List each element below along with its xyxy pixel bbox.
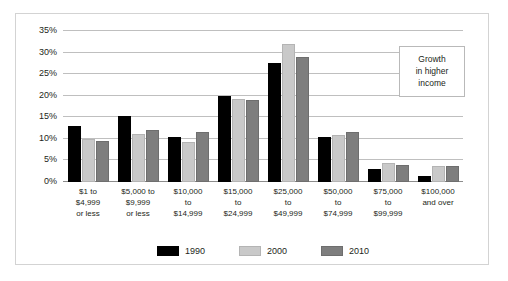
x-axis-tick-label: $15,000to$24,999	[213, 186, 263, 219]
bar-2010	[346, 132, 359, 182]
bar-2000	[182, 142, 195, 182]
legend-item-2010[interactable]: 2010	[321, 246, 369, 256]
legend-swatch-2000	[239, 246, 261, 256]
y-axis-tick-label: 10%	[39, 133, 57, 142]
x-axis-tick-label-line: to	[363, 197, 413, 208]
x-axis-tick-label-line: or less	[113, 208, 163, 219]
bar-chart-figure: 0%5%10%15%20%25%30%35% $1 to$4,999or les…	[0, 0, 508, 281]
x-axis-tick-label-line: $100,000	[413, 186, 463, 197]
x-axis-tick-label-line: $4,999	[63, 197, 113, 208]
legend-swatch-1990	[157, 246, 179, 256]
bar-1990	[268, 63, 281, 182]
x-axis-tick-label-line: $24,999	[213, 208, 263, 219]
x-axis-tick-label-line: to	[313, 197, 363, 208]
x-axis-tick-label: $1 to$4,999or less	[63, 186, 113, 219]
y-axis-tick-label: 20%	[39, 90, 57, 99]
bar-2000	[132, 134, 145, 182]
bar-group	[313, 31, 363, 182]
bar-2010	[96, 141, 109, 182]
x-axis-tick-label-line: $9,999	[113, 197, 163, 208]
x-axis-tick-label-line: to	[263, 197, 313, 208]
x-axis-tick-label-line: $75,000	[363, 186, 413, 197]
x-axis-tick-label-line: $50,000	[313, 186, 363, 197]
x-axis-tick-label: $25,000to$49,999	[263, 186, 313, 219]
bar-2010	[296, 57, 309, 182]
callout-line-3: income	[402, 77, 462, 89]
legend-item-1990[interactable]: 1990	[157, 246, 205, 256]
bar-1990	[68, 126, 81, 182]
bar-group	[63, 31, 113, 182]
x-axis-tick-label-line: $25,000	[263, 186, 313, 197]
bar-1990	[168, 137, 181, 182]
bar-2000	[82, 139, 95, 182]
bar-2000	[232, 99, 245, 182]
bar-2010	[396, 165, 409, 182]
bar-1990	[218, 96, 231, 182]
x-axis-tick-label-line: to	[213, 197, 263, 208]
chart-legend: 199020002010	[63, 246, 463, 256]
x-axis-tick-label-line: $1 to	[63, 186, 113, 197]
x-axis-tick-label-line: $49,999	[263, 208, 313, 219]
x-axis-tick-label-line: and over	[413, 197, 463, 208]
x-axis-tick-label-line: $10,000	[163, 186, 213, 197]
y-axis-tick-label: 35%	[39, 26, 57, 35]
bar-group	[263, 31, 313, 182]
bar-2000	[432, 166, 445, 182]
bar-2000	[282, 44, 295, 182]
x-axis-tick-label-line: to	[163, 197, 213, 208]
x-axis-tick-label: $5,000 to$9,999or less	[113, 186, 163, 219]
x-axis-tick-label: $10,000to$14,999	[163, 186, 213, 219]
bar-group	[213, 31, 263, 182]
bar-1990	[418, 176, 431, 182]
legend-label: 1990	[185, 247, 205, 256]
bar-1990	[368, 169, 381, 182]
legend-item-2000[interactable]: 2000	[239, 246, 287, 256]
growth-in-higher-income-callout: Growth in higher income	[399, 46, 465, 97]
x-axis-tick-label-line: $74,999	[313, 208, 363, 219]
x-axis-tick-label: $75,000to$99,999	[363, 186, 413, 219]
bar-1990	[318, 137, 331, 182]
x-axis-labels: $1 to$4,999or less$5,000 to$9,999or less…	[63, 186, 463, 219]
bar-2010	[446, 166, 459, 182]
x-axis-tick-label-line: $15,000	[213, 186, 263, 197]
bar-2010	[146, 130, 159, 182]
bar-group	[163, 31, 213, 182]
x-axis-tick-label-line: $99,999	[363, 208, 413, 219]
callout-line-2: in higher	[402, 65, 462, 77]
y-axis-tick-label: 25%	[39, 69, 57, 78]
bar-2010	[246, 100, 259, 182]
y-axis-tick-label: 15%	[39, 112, 57, 121]
legend-swatch-2010	[321, 246, 343, 256]
x-axis-tick-label-line: or less	[63, 208, 113, 219]
bar-2010	[196, 132, 209, 182]
y-axis-tick-label: 0%	[44, 177, 57, 186]
bar-2000	[332, 135, 345, 182]
x-axis-tick-label: $100,000and over	[413, 186, 463, 219]
legend-label: 2010	[349, 247, 369, 256]
x-axis-tick-label-line: $14,999	[163, 208, 213, 219]
bar-1990	[118, 116, 131, 182]
x-axis-tick-label: $50,000to$74,999	[313, 186, 363, 219]
y-axis-tick-label: 5%	[44, 155, 57, 164]
bar-group	[113, 31, 163, 182]
bar-2000	[382, 163, 395, 182]
x-axis-tick-label-line: $5,000 to	[113, 186, 163, 197]
callout-line-1: Growth	[402, 53, 462, 65]
legend-label: 2000	[267, 247, 287, 256]
y-axis-tick-label: 30%	[39, 47, 57, 56]
